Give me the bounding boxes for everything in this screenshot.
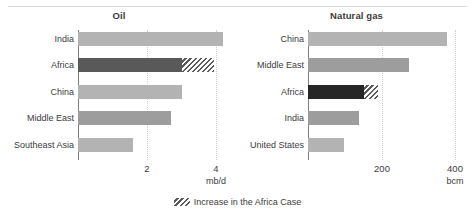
bar-increase-africa [182, 58, 215, 72]
panel-title-oil: Oil [0, 10, 238, 21]
bar-base-india [308, 111, 359, 125]
category-label-southeast-asia: Southeast Asia [2, 138, 74, 152]
bar-row [308, 58, 462, 72]
category-label-middle-east: Middle East [234, 58, 304, 72]
x-tick-label-400: 400 [435, 163, 475, 174]
bar-row [308, 111, 462, 125]
chart-panel-natural-gas: Natural gas ChinaMiddle EastAfricaIndiaU… [238, 0, 475, 186]
bar-row [78, 85, 226, 99]
x-tick-label-2: 2 [127, 163, 167, 174]
category-label-africa: Africa [2, 58, 74, 72]
bar-row [78, 32, 226, 46]
bar-base-middle-east [78, 111, 171, 125]
plot-area-oil [78, 30, 226, 160]
bar-base-southeast-asia [78, 138, 133, 152]
hatched-increase-swatch [174, 198, 190, 206]
x-tick-label-4: 4 [196, 163, 236, 174]
legend-label-increase: Increase in the Africa Case [194, 197, 302, 207]
bar-row [308, 138, 462, 152]
bar-base-africa [308, 85, 364, 99]
bar-row [308, 32, 462, 46]
x-tick-label-200: 200 [362, 163, 402, 174]
bar-row [78, 58, 226, 72]
category-label-africa: Africa [234, 85, 304, 99]
category-label-india: India [2, 32, 74, 46]
axis-unit-label-oil: mb/d [196, 176, 236, 186]
bar-row [78, 111, 226, 125]
plot-area-natural-gas [308, 30, 462, 160]
bar-base-china [78, 85, 182, 99]
bar-row [308, 85, 462, 99]
bar-increase-africa [364, 85, 378, 99]
bar-base-china [308, 32, 447, 46]
chart-panel-oil: Oil IndiaAfricaChinaMiddle EastSoutheast… [0, 0, 238, 186]
bar-base-middle-east [308, 58, 409, 72]
chart-figure: Oil IndiaAfricaChinaMiddle EastSoutheast… [0, 0, 475, 211]
category-label-china: China [234, 32, 304, 46]
bar-base-africa [78, 58, 182, 72]
category-label-united-states: United States [234, 138, 304, 152]
bar-row [78, 138, 226, 152]
bar-base-india [78, 32, 223, 46]
category-label-china: China [2, 85, 74, 99]
category-label-middle-east: Middle East [2, 111, 74, 125]
chart-legend: Increase in the Africa Case [0, 197, 475, 207]
axis-unit-label-gas: bcm [435, 176, 475, 186]
category-label-india: India [234, 111, 304, 125]
panel-title-natural-gas: Natural gas [238, 10, 475, 21]
bar-base-united-states [308, 138, 344, 152]
